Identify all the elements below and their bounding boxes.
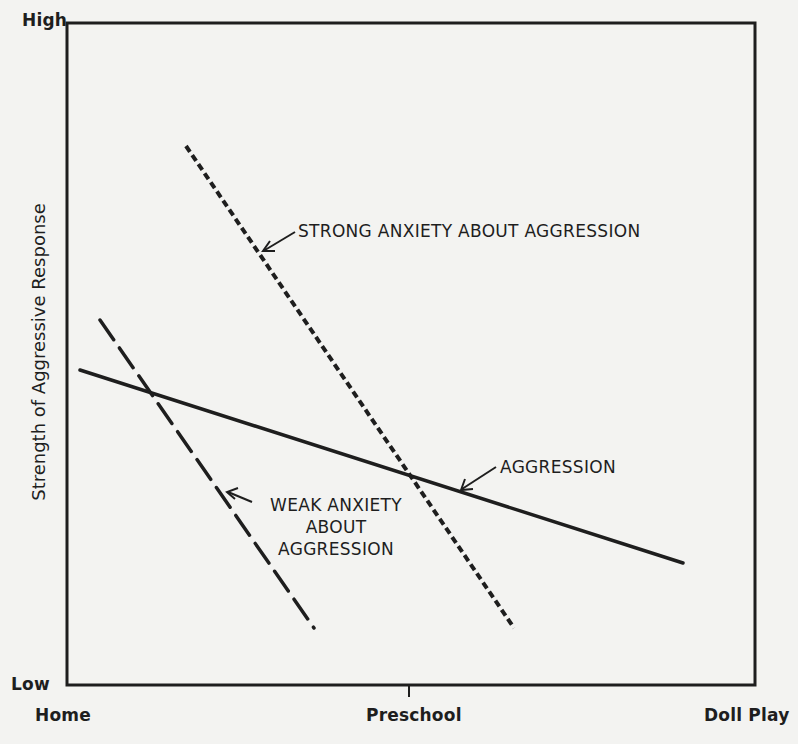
arrow-aggression: [461, 467, 496, 490]
x-tick-doll-play: Doll Play: [704, 705, 789, 725]
annotation-weak-line2: ABOUT: [256, 516, 416, 538]
annotation-strong-anxiety: STRONG ANXIETY ABOUT AGGRESSION: [298, 221, 640, 241]
chart-canvas: [0, 0, 798, 744]
arrow-weak: [227, 488, 252, 502]
annotation-aggression: AGGRESSION: [500, 457, 616, 477]
y-axis-label: Strength of Aggressive Response: [28, 203, 49, 501]
line-weak-anxiety: [100, 320, 314, 628]
y-tick-low: Low: [11, 674, 50, 694]
plot-frame: [67, 23, 755, 685]
annotation-weak-anxiety: WEAK ANXIETY ABOUT AGGRESSION: [256, 494, 416, 560]
x-tick-home: Home: [35, 705, 91, 725]
annotation-weak-line1: WEAK ANXIETY: [256, 494, 416, 516]
y-tick-high: High: [22, 10, 67, 30]
annotation-weak-line3: AGGRESSION: [256, 538, 416, 560]
arrow-strong: [263, 232, 295, 251]
x-tick-preschool-label: Preschool: [366, 705, 462, 725]
